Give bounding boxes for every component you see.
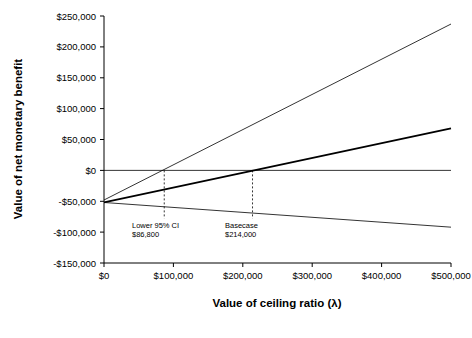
lower-ci-label: Lower 95% CI (132, 221, 179, 230)
x-axis-tick-labels: $0 $100,000 $200,000 $300,000 $400,000 $… (99, 270, 471, 281)
x-tick-label: $0 (99, 270, 110, 281)
x-tick-label: $400,000 (362, 270, 402, 281)
y-tick-label: $150,000 (56, 72, 96, 83)
basecase-value: $214,000 (225, 230, 256, 239)
x-axis-ticks (104, 263, 451, 267)
y-tick-label: $200,000 (56, 41, 96, 52)
lower-ci-value: $86,800 (132, 230, 159, 239)
y-axis-tick-labels: $250,000 $200,000 $150,000 $100,000 $50,… (53, 11, 96, 269)
y-tick-label: $250,000 (56, 11, 96, 22)
chart-container: $250,000 $200,000 $150,000 $100,000 $50,… (0, 0, 472, 338)
x-tick-label: $500,000 (431, 270, 471, 281)
x-tick-label: $100,000 (154, 270, 194, 281)
y-tick-label: $50,000 (62, 134, 96, 145)
y-tick-label: $0 (85, 165, 96, 176)
net-monetary-benefit-chart: $250,000 $200,000 $150,000 $100,000 $50,… (0, 0, 472, 338)
y-tick-label: -$100,000 (53, 227, 96, 238)
y-tick-label: -$50,000 (58, 196, 96, 207)
basecase-label: Basecase (225, 221, 258, 230)
y-axis-title: Value of net monetary benefit (12, 59, 24, 220)
y-axis-ticks (100, 16, 104, 263)
y-tick-label: -$150,000 (53, 258, 96, 269)
x-tick-label: $300,000 (292, 270, 332, 281)
x-axis-title: Value of ceiling ratio (λ) (212, 297, 341, 309)
annotation-basecase: Basecase $214,000 (225, 221, 258, 239)
y-tick-label: $100,000 (56, 103, 96, 114)
x-tick-label: $200,000 (223, 270, 263, 281)
